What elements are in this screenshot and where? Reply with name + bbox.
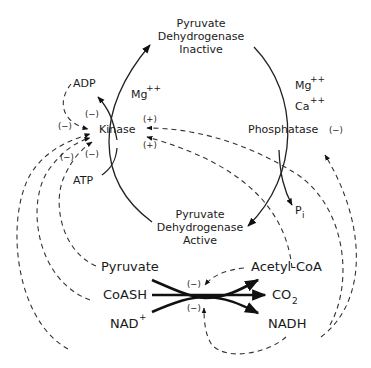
svg-text:NAD: NAD xyxy=(110,316,139,331)
kinase-label: Kinase xyxy=(99,123,136,136)
svg-text:++: ++ xyxy=(146,83,161,93)
nadh-label: NADH xyxy=(268,316,306,331)
sign-adp-inhibit: (−) xyxy=(85,109,99,119)
pdh-reaction xyxy=(152,268,286,354)
sign-nad-inhibit: (−) xyxy=(58,121,72,131)
sign-phosphatase-inhibit: (−) xyxy=(329,125,343,135)
sign-acetylcoa-activate: (+) xyxy=(143,114,157,124)
svg-text:CO: CO xyxy=(272,287,291,302)
pdh-regulation-diagram: Pyruvate Dehydrogenase Inactive Pyruvate… xyxy=(0,0,371,368)
mg-phosphatase-label: Mg ++ xyxy=(295,74,325,92)
phosphatase-arc xyxy=(248,47,292,226)
adp-label: ADP xyxy=(73,77,96,90)
svg-text:P: P xyxy=(295,204,302,217)
svg-text:Pyruvate: Pyruvate xyxy=(177,17,226,30)
svg-text:Ca: Ca xyxy=(295,100,309,113)
acetylcoa-label: Acetyl-CoA xyxy=(251,259,322,274)
sign-pyruvate-inhibit: (−) xyxy=(85,149,99,159)
phosphatase-label: Phosphatase xyxy=(248,123,319,136)
co2-label: CO 2 xyxy=(272,287,298,306)
svg-text:Mg: Mg xyxy=(131,88,147,101)
svg-text:Pyruvate: Pyruvate xyxy=(176,208,225,221)
svg-text:Active: Active xyxy=(183,234,217,247)
svg-text:i: i xyxy=(302,210,305,220)
sign-reaction-acetylcoa: (−) xyxy=(187,279,201,289)
pyruvate-label: Pyruvate xyxy=(101,259,159,274)
mg-kinase-label: Mg ++ xyxy=(131,83,161,101)
svg-text:+: + xyxy=(139,312,147,322)
atp-label: ATP xyxy=(73,174,93,187)
svg-text:Dehydrogenase: Dehydrogenase xyxy=(158,30,245,43)
sign-reaction-nadh: (−) xyxy=(187,303,201,313)
svg-text:Inactive: Inactive xyxy=(179,43,223,56)
nad-label: NAD + xyxy=(110,312,147,331)
svg-text:Dehydrogenase: Dehydrogenase xyxy=(157,221,244,234)
ca-phosphatase-label: Ca ++ xyxy=(295,95,325,113)
svg-text:++: ++ xyxy=(310,95,325,105)
sign-nadh-activate: (+) xyxy=(143,140,157,150)
svg-text:2: 2 xyxy=(292,296,298,306)
svg-text:++: ++ xyxy=(310,74,325,84)
pdh-active-label: Pyruvate Dehydrogenase Active xyxy=(157,208,244,247)
coash-label: CoASH xyxy=(103,287,147,302)
pdh-inactive-label: Pyruvate Dehydrogenase Inactive xyxy=(158,17,245,56)
sign-coash-inhibit: (−) xyxy=(60,152,74,162)
svg-text:Mg: Mg xyxy=(295,79,311,92)
kinase-inhibitor-lines xyxy=(17,84,96,349)
pi-label: P i xyxy=(295,204,305,220)
